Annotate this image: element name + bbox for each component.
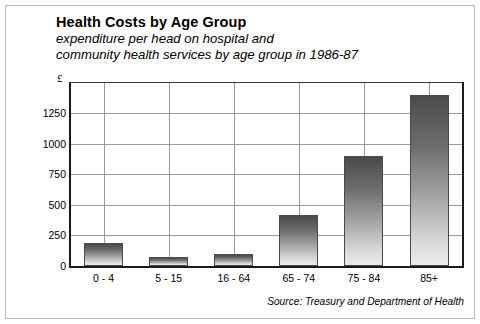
x-axis-tick-label: 85+	[420, 272, 438, 284]
y-axis-tick-label: 750	[48, 168, 66, 180]
bar-85plus	[410, 95, 449, 266]
bar-0-4	[84, 243, 123, 266]
gridline-vertical	[234, 83, 235, 266]
chart-subtitle: expenditure per head on hospital and com…	[56, 31, 466, 62]
y-axis-tick-label: 1250	[43, 107, 66, 119]
gridline-horizontal	[71, 174, 462, 175]
x-axis-tick-label: 5 - 15	[155, 272, 182, 284]
x-axis-tick-label: 0 - 4	[93, 272, 114, 284]
y-axis-tick-label: 500	[48, 199, 66, 211]
chart-subtitle-line-2: community health services by age group i…	[56, 47, 466, 63]
y-axis-tick-label: 0	[60, 260, 66, 272]
bar-5-15	[149, 257, 188, 266]
chart-subtitle-line-1: expenditure per head on hospital and	[56, 31, 466, 47]
gridline-horizontal	[71, 144, 462, 145]
chart-figure: Health Costs by Age Group expenditure pe…	[0, 0, 480, 324]
chart-title: Health Costs by Age Group	[56, 14, 466, 30]
y-axis-tick-label: 1000	[43, 138, 66, 150]
bar-16-64	[214, 254, 253, 266]
bar-65-74	[279, 215, 318, 266]
bar-75-84	[344, 156, 383, 266]
gridline-horizontal	[71, 205, 462, 206]
gridline-horizontal	[71, 113, 462, 114]
plot-inner: 0250500750100012500 - 45 - 1516 - 6465 -…	[71, 83, 462, 266]
source-note: Source: Treasury and Department of Healt…	[267, 296, 464, 307]
x-axis-tick-label: 65 - 74	[282, 272, 315, 284]
gridline-vertical	[169, 83, 170, 266]
y-axis-tick-label: 250	[48, 229, 66, 241]
gridline-vertical	[104, 83, 105, 266]
gridline-horizontal	[71, 235, 462, 236]
x-axis-tick-label: 16 - 64	[217, 272, 250, 284]
y-axis-unit-label: £	[57, 72, 63, 84]
title-block: Health Costs by Age Group expenditure pe…	[56, 14, 466, 62]
x-axis-tick-label: 75 - 84	[348, 272, 381, 284]
plot-area: 0250500750100012500 - 45 - 1516 - 6465 -…	[69, 82, 464, 268]
